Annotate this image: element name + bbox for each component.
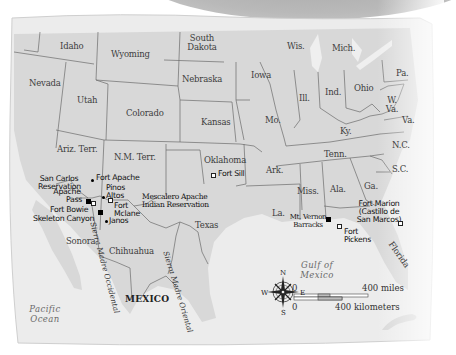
region-label-chihuahua: Chihuahua bbox=[109, 247, 154, 256]
compass-east-label: E bbox=[300, 289, 305, 297]
label-line: Pickens bbox=[344, 236, 371, 244]
state-label-wisconsin: Wis. bbox=[287, 42, 305, 51]
site-label-mt-vernon-barracks: Mt. Vernon Barracks bbox=[288, 213, 328, 229]
state-label-north-carolina: N.C. bbox=[392, 141, 410, 150]
scale-km-end: 400 kilometers bbox=[335, 302, 400, 312]
site-label-fort-sill: Fort Sill bbox=[218, 170, 244, 178]
scale-km-start: 0 bbox=[292, 302, 297, 312]
state-label-south-dakota: South Dakota bbox=[184, 34, 220, 52]
state-label-arkansas: Ark. bbox=[266, 166, 283, 175]
state-label-missouri: Mo. bbox=[265, 116, 281, 125]
state-label-new-mexico-territory: N.M. Terr. bbox=[114, 153, 156, 162]
janos-marker[interactable] bbox=[105, 220, 108, 223]
state-label-virginia: Va. bbox=[402, 116, 415, 125]
compass-north-label: N bbox=[280, 269, 286, 277]
fort-marion-marker[interactable] bbox=[398, 221, 403, 226]
state-label-tennessee: Tenn. bbox=[324, 150, 347, 159]
label-line: Indian Reservation bbox=[142, 201, 209, 209]
label-line: Pacific bbox=[20, 304, 70, 314]
state-label-louisiana: La. bbox=[272, 209, 285, 218]
fort-sill-marker[interactable] bbox=[211, 173, 216, 178]
site-label-skeleton-canyon: Skeleton Canyon bbox=[33, 215, 94, 223]
state-label-georgia: Ga. bbox=[364, 182, 378, 191]
region-label-sonora: Sonora bbox=[66, 237, 95, 246]
state-label-wyoming: Wyoming bbox=[111, 50, 150, 59]
state-label-nebraska: Nebraska bbox=[182, 75, 222, 84]
label-line: Pass bbox=[52, 196, 82, 204]
pinos-altos-marker[interactable] bbox=[102, 196, 105, 199]
label-line: Va. bbox=[384, 105, 400, 114]
compass-west-label: W bbox=[261, 289, 268, 297]
fort-pickens-marker[interactable] bbox=[337, 224, 342, 229]
fort-mclane-marker[interactable] bbox=[108, 198, 113, 203]
country-label-mexico: MEXICO bbox=[125, 294, 169, 304]
fort-bowie-marker[interactable] bbox=[91, 201, 96, 206]
site-label-fort-pickens: Fort Pickens bbox=[344, 228, 371, 244]
state-label-indiana: Ind. bbox=[325, 88, 341, 97]
state-label-texas: Texas bbox=[195, 221, 218, 230]
state-label-iowa: Iowa bbox=[251, 71, 271, 80]
state-label-illinois: Ill. bbox=[299, 94, 310, 103]
state-label-idaho: Idaho bbox=[60, 42, 83, 51]
state-label-mississippi: Miss. bbox=[297, 187, 319, 196]
state-label-colorado: Colorado bbox=[126, 109, 164, 118]
state-label-michigan: Mich. bbox=[332, 44, 355, 53]
state-label-kansas: Kansas bbox=[201, 118, 230, 127]
site-label-mescalero-apache-reservation: Mescalero Apache Indian Reservation bbox=[142, 193, 209, 209]
state-label-oklahoma: Oklahoma bbox=[204, 156, 246, 165]
state-label-south-carolina: S.C. bbox=[392, 165, 408, 174]
site-label-fort-apache: Fort Apache bbox=[96, 174, 140, 182]
state-label-alabama: Ala. bbox=[330, 185, 346, 194]
label-line: Mexico bbox=[295, 270, 339, 280]
label-line: Barracks bbox=[288, 221, 328, 229]
state-label-west-virginia: W. Va. bbox=[384, 96, 400, 114]
site-label-fort-bowie: Fort Bowie bbox=[50, 206, 88, 214]
state-label-ohio: Ohio bbox=[354, 84, 373, 93]
scale-miles-start: 0 bbox=[292, 283, 297, 293]
fort-apache-marker[interactable] bbox=[91, 179, 94, 182]
state-label-pennsylvania: Pa. bbox=[396, 69, 409, 78]
label-line: Mt. Vernon bbox=[288, 213, 328, 221]
site-label-janos: Janos bbox=[109, 217, 128, 225]
site-label-apache-pass: Apache Pass bbox=[52, 188, 82, 204]
water-label-pacific-ocean: Pacific Ocean bbox=[20, 304, 70, 324]
state-label-arizona-territory: Ariz. Terr. bbox=[57, 145, 98, 154]
scale-miles-end: 400 miles bbox=[362, 283, 404, 293]
label-line: Dakota bbox=[184, 43, 220, 52]
label-line: Gulf of bbox=[295, 260, 339, 270]
state-label-utah: Utah bbox=[77, 96, 97, 105]
state-label-kentucky: Ky. bbox=[340, 127, 352, 136]
skeleton-canyon-marker[interactable] bbox=[98, 210, 103, 215]
state-label-nevada: Nevada bbox=[29, 79, 61, 88]
water-label-gulf-of-mexico: Gulf of Mexico bbox=[295, 260, 339, 280]
mt-vernon-barracks-marker[interactable] bbox=[326, 217, 331, 222]
label-line: Ocean bbox=[20, 314, 70, 324]
compass-south-label: S bbox=[281, 309, 286, 317]
